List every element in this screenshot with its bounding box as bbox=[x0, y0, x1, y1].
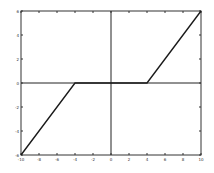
dead-zone-chart: -10-8-6-4-20246810-6-4-20246 bbox=[0, 0, 214, 173]
x-tick-label: 8 bbox=[182, 157, 185, 162]
y-tick-label: 4 bbox=[16, 33, 19, 38]
x-tick-label: 10 bbox=[198, 157, 204, 162]
x-tick-label: 4 bbox=[146, 157, 149, 162]
x-tick-label: 6 bbox=[164, 157, 167, 162]
x-tick-label: -6 bbox=[55, 157, 59, 162]
y-tick-label: 6 bbox=[16, 9, 19, 14]
y-tick-label: -2 bbox=[15, 105, 19, 110]
y-tick-label: -6 bbox=[15, 153, 19, 158]
x-tick-label: 0 bbox=[110, 157, 113, 162]
x-tick-label: -4 bbox=[73, 157, 77, 162]
x-tick-label: -8 bbox=[37, 157, 41, 162]
x-tick-label: -2 bbox=[91, 157, 95, 162]
y-tick-label: 0 bbox=[16, 81, 19, 86]
x-tick-label: 2 bbox=[128, 157, 131, 162]
y-tick-label: -4 bbox=[15, 129, 19, 134]
plot-area: -10-8-6-4-20246810-6-4-20246 bbox=[15, 9, 204, 163]
y-tick-label: 2 bbox=[16, 57, 19, 62]
x-tick-label: -10 bbox=[18, 157, 25, 162]
